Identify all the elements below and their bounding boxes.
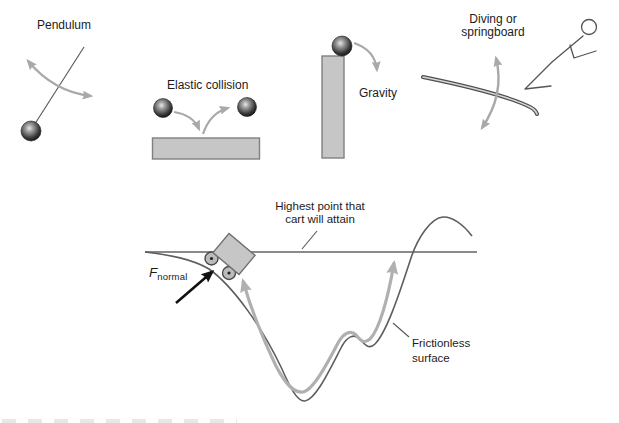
force-subscript: normal [157,271,187,282]
diving-label: Diving or springboard [449,13,537,39]
frictionless-leader-line [393,323,409,337]
highest-point-label-line2: cart will attain [261,213,379,226]
cart-valley-panel [145,217,477,401]
elastic-collision-panel [153,98,260,160]
gravity-column [322,56,344,158]
diver-arm [570,45,596,58]
frictionless-track-curve [145,217,472,401]
force-symbol: F [149,265,157,280]
cart-wheel-front-hub [227,271,230,274]
collision-outgoing-arrow [203,108,228,134]
diver-head [582,20,597,35]
collision-incoming-arrow [174,112,199,129]
cart-motion-path-arrow [243,263,394,392]
cart-wheel-rear-hub [210,257,213,260]
normal-force-label: Fnormal [149,266,188,283]
gravity-fall-arrow [354,43,377,70]
gravity-label: Gravity [359,87,397,100]
diving-label-line2: springboard [449,26,537,39]
collision-ball-left [154,99,173,118]
diving-board [423,77,537,114]
frictionless-surface-label: Frictionless surface [412,336,470,366]
cutoff-caption-remnant [2,419,237,423]
pendulum-bob [21,121,41,141]
physics-figure-canvas: Pendulum Elastic collision Gravity Divin… [0,0,619,423]
highest-point-label: Highest point that cart will attain [261,200,379,226]
pendulum-string [31,47,84,130]
pendulum-label: Pendulum [37,19,91,32]
highest-point-label-line1: Highest point that [261,200,379,213]
cart-body [213,233,255,274]
frictionless-surface-line1: Frictionless [412,336,470,351]
gravity-ball [332,36,352,56]
collision-surface [153,138,260,159]
highest-point-leader-line [302,231,317,249]
diver-body-legs [525,36,583,89]
pendulum-panel [21,47,91,141]
elastic-collision-label: Elastic collision [167,79,248,92]
collision-ball-right [238,98,257,117]
frictionless-surface-line2: surface [412,351,470,366]
pendulum-swing-arrow [28,61,91,96]
